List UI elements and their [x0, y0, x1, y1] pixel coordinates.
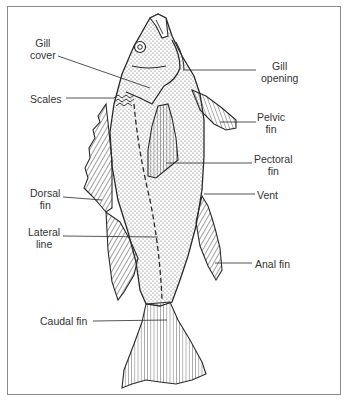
caudal-fin — [122, 302, 206, 388]
label-lateral-line: Lateral line — [28, 226, 60, 250]
label-anal-fin: Anal fin — [255, 258, 290, 270]
label-pectoral-fin: Pectoral fin — [254, 153, 293, 177]
anal-fin — [196, 196, 222, 280]
eye — [135, 42, 146, 53]
label-gill-cover: Gill cover — [30, 37, 56, 61]
label-caudal-fin: Caudal fin — [40, 315, 87, 327]
label-scales: Scales — [30, 93, 62, 105]
label-dorsal-fin: Dorsal fin — [30, 187, 60, 211]
label-pelvic-fin: Pelvic fin — [257, 111, 285, 135]
label-vent: Vent — [257, 189, 278, 201]
label-gill-opening: Gill opening — [261, 60, 298, 84]
